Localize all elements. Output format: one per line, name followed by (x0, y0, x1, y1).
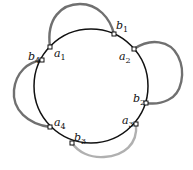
label-b4: b4 (28, 50, 40, 65)
label-a1: a1 (54, 47, 66, 62)
label-b2: b2 (133, 92, 145, 107)
arc-a2-b2 (134, 42, 182, 103)
label-b3: b3 (74, 131, 86, 146)
label-a4: a4 (54, 116, 66, 131)
point-a4-marker (48, 125, 52, 129)
label-a2: a2 (119, 50, 131, 65)
circle-chord-diagram: a1 b1 a2 b2 a3 b3 a4 b4 (0, 0, 193, 170)
point-a3-marker (134, 122, 138, 126)
point-b1-marker (112, 32, 116, 36)
point-b4-marker (40, 58, 44, 62)
point-a1-marker (48, 45, 52, 49)
arc-b4-a4 (14, 60, 50, 127)
point-a2-marker (132, 47, 136, 51)
arc-a1-b1 (49, 4, 114, 47)
label-b1: b1 (116, 19, 128, 34)
label-a3: a3 (122, 114, 134, 129)
